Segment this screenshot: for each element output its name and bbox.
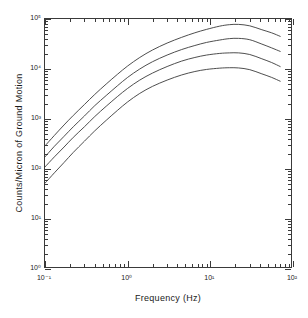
y-axis-right-minor-tick (288, 27, 291, 28)
y-axis-tick-label: 10⁰ (24, 264, 41, 272)
y-axis-minor-tick (45, 230, 48, 231)
y-axis-minor-tick (45, 154, 48, 155)
x-axis-minor-tick (250, 264, 251, 267)
figure-top-margin (44, 0, 292, 10)
y-axis-right-minor-tick (288, 254, 291, 255)
y-axis-minor-tick (45, 177, 48, 178)
y-axis-minor-tick (45, 27, 48, 28)
x-axis-top-minor-tick (207, 19, 208, 22)
y-axis-right-minor-tick (288, 54, 291, 55)
x-axis-top-minor-tick (275, 19, 276, 22)
y-axis-right-minor-tick (288, 184, 291, 185)
y-axis-tick-label: 10³ (24, 114, 41, 122)
y-axis-minor-tick (45, 45, 48, 46)
x-axis-top-minor-tick (109, 19, 110, 22)
y-axis-major-tick (45, 269, 51, 270)
y-axis-right-minor-tick (288, 239, 291, 240)
y-axis-right-minor-tick (288, 124, 291, 125)
y-axis-tick-label: 10¹ (24, 214, 41, 222)
y-axis-minor-tick (45, 71, 48, 72)
y-axis-right-minor-tick (288, 34, 291, 35)
y-axis-minor-tick (45, 145, 48, 146)
y-axis-minor-tick (45, 127, 48, 128)
x-axis-minor-tick (185, 264, 186, 267)
y-axis-right-minor-tick (288, 24, 291, 25)
y-axis-minor-tick (45, 139, 48, 140)
y-axis-right-major-tick (285, 69, 291, 70)
x-axis-minor-tick (177, 264, 178, 267)
x-axis-minor-tick (103, 264, 104, 267)
response-curve (45, 38, 280, 157)
seismometer-response-figure: Frequency (Hz) Counts/Micron of Ground M… (0, 0, 308, 318)
x-axis-top-minor-tick (124, 19, 125, 22)
x-axis-major-tick (293, 261, 294, 267)
y-axis-minor-tick (45, 221, 48, 222)
y-axis-tick-label: 10² (24, 164, 41, 172)
x-axis-top-minor-tick (250, 19, 251, 22)
x-axis-top-major-tick (210, 19, 211, 25)
y-axis-minor-tick (45, 21, 48, 22)
y-axis-major-tick (45, 169, 51, 170)
x-axis-minor-tick (285, 264, 286, 267)
y-axis-minor-tick (45, 34, 48, 35)
x-axis-minor-tick (260, 264, 261, 267)
y-axis-right-minor-tick (288, 234, 291, 235)
x-axis-minor-tick (275, 264, 276, 267)
y-axis-right-minor-tick (288, 174, 291, 175)
x-axis-minor-tick (207, 264, 208, 267)
x-axis-top-minor-tick (198, 19, 199, 22)
y-axis-minor-tick (45, 95, 48, 96)
x-axis-top-minor-tick (115, 19, 116, 22)
y-axis-right-minor-tick (288, 227, 291, 228)
response-curve (45, 24, 280, 146)
y-axis-minor-tick (45, 204, 48, 205)
y-axis-right-minor-tick (288, 204, 291, 205)
y-axis-right-minor-tick (288, 45, 291, 46)
y-axis-minor-tick (45, 124, 48, 125)
y-axis-minor-tick (45, 77, 48, 78)
x-axis-top-minor-tick (103, 19, 104, 22)
y-axis-title: Counts/Micron of Ground Motion (14, 18, 28, 268)
x-axis-top-minor-tick (84, 19, 85, 22)
y-axis-minor-tick (45, 234, 48, 235)
y-axis-minor-tick (45, 180, 48, 181)
y-axis-tick-label: 10⁴ (24, 64, 41, 72)
y-axis-minor-tick (45, 134, 48, 135)
y-axis-minor-tick (45, 104, 48, 105)
x-axis-minor-tick (268, 264, 269, 267)
x-axis-tick-label: 10⁰ (121, 274, 132, 282)
y-axis-right-minor-tick (288, 21, 291, 22)
x-axis-top-minor-tick (235, 19, 236, 22)
x-axis-top-minor-tick (95, 19, 96, 22)
y-axis-minor-tick (45, 30, 48, 31)
x-axis-minor-tick (280, 264, 281, 267)
y-axis-major-tick (45, 19, 51, 20)
x-axis-minor-tick (115, 264, 116, 267)
y-axis-right-minor-tick (288, 145, 291, 146)
y-axis-right-minor-tick (288, 84, 291, 85)
response-curve (45, 68, 280, 184)
y-axis-right-minor-tick (288, 134, 291, 135)
x-axis-minor-tick (202, 264, 203, 267)
x-axis-minor-tick (120, 264, 121, 267)
y-axis-right-minor-tick (288, 121, 291, 122)
x-axis-minor-tick (84, 264, 85, 267)
x-axis-top-minor-tick (153, 19, 154, 22)
x-axis-minor-tick (198, 264, 199, 267)
y-axis-right-minor-tick (288, 224, 291, 225)
x-axis-minor-tick (192, 264, 193, 267)
y-axis-right-major-tick (285, 19, 291, 20)
y-axis-minor-tick (45, 171, 48, 172)
x-axis-top-minor-tick (167, 19, 168, 22)
y-axis-right-minor-tick (288, 71, 291, 72)
x-axis-minor-tick (124, 264, 125, 267)
x-axis-title: Frequency (Hz) (44, 293, 292, 303)
x-axis-minor-tick (153, 264, 154, 267)
x-axis-top-minor-tick (268, 19, 269, 22)
y-axis-minor-tick (45, 74, 48, 75)
x-axis-top-minor-tick (185, 19, 186, 22)
y-axis-minor-tick (45, 80, 48, 81)
x-axis-major-tick (45, 261, 46, 267)
y-axis-right-minor-tick (288, 221, 291, 222)
x-axis-tick-label: 10¹ (204, 274, 214, 282)
